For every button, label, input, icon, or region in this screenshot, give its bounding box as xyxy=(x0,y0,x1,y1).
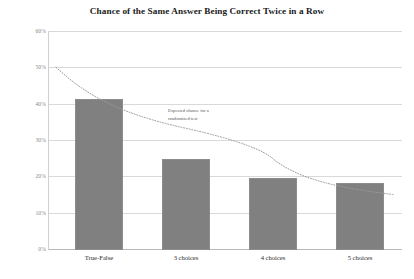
curve-annotation-line-2: randomized test xyxy=(168,115,232,123)
ytick-label-20: 20% xyxy=(6,173,46,179)
curve-annotation-line-1: Expected chance for a xyxy=(168,107,232,115)
plot-area xyxy=(48,31,402,250)
xtick-label-3-choices: 3 choices xyxy=(174,254,199,261)
expected-chance-curve-layer xyxy=(48,31,402,250)
xtick-label-true-false: True-False xyxy=(85,254,113,261)
chart-title: Chance of the Same Answer Being Correct … xyxy=(0,6,414,16)
ytick-label-60: 60% xyxy=(6,28,46,34)
xtick-label-5-choices: 5 choices xyxy=(348,254,373,261)
curve-annotation: Expected chance for a randomized test xyxy=(168,107,232,123)
xtick-label-4-choices: 4 choices xyxy=(261,254,286,261)
ytick-label-50: 50% xyxy=(6,64,46,70)
ytick-label-0: 0% xyxy=(6,246,46,252)
ytick-label-40: 40% xyxy=(6,101,46,107)
ytick-label-10: 10% xyxy=(6,210,46,216)
ytick-label-30: 30% xyxy=(6,137,46,143)
expected-chance-curve xyxy=(48,31,402,250)
chart-container: Chance of the Same Answer Being Correct … xyxy=(0,0,414,279)
